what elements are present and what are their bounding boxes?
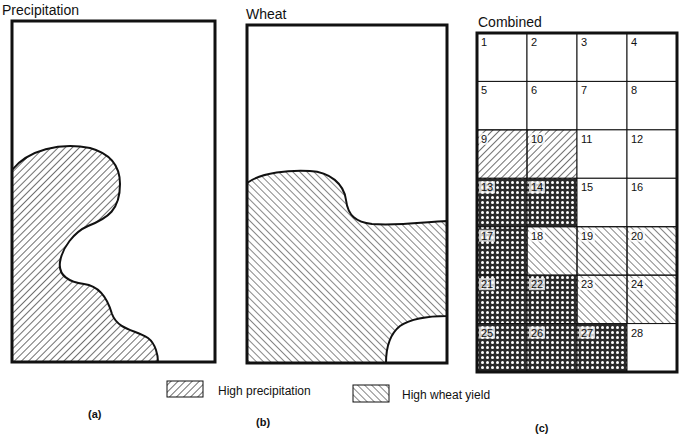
grid-cell-number: 1 <box>481 36 487 48</box>
combined-grid: 1234567891011121314151617181920212223242… <box>477 33 677 372</box>
grid-cell-number: 18 <box>531 230 543 242</box>
grid-cell-number: 2 <box>531 36 537 48</box>
grid-cell-number: 3 <box>581 36 587 48</box>
grid-cell-number: 14 <box>531 181 543 193</box>
caption-a: (a) <box>88 408 101 420</box>
grid-cell-number: 12 <box>631 133 643 145</box>
grid-cell-number: 17 <box>481 230 493 242</box>
grid-cell-number: 13 <box>481 181 493 193</box>
legend-label-precipitation: High precipitation <box>218 384 311 398</box>
grid-cell-number: 20 <box>631 230 643 242</box>
high-wheat-region <box>247 171 447 363</box>
caption-b: (b) <box>256 416 270 428</box>
legend-swatch-wheat <box>353 385 389 402</box>
grid-cell-number: 22 <box>531 278 543 290</box>
high-precipitation-region <box>12 146 158 362</box>
grid-cell-number: 7 <box>581 84 587 96</box>
grid-cell-number: 10 <box>531 133 543 145</box>
grid-cell-number: 5 <box>481 84 487 96</box>
grid-cell-number: 16 <box>631 181 643 193</box>
grid-cell-number: 9 <box>481 133 487 145</box>
grid-cell-number: 11 <box>581 133 592 145</box>
caption-c: (c) <box>535 422 548 434</box>
legend-label-wheat: High wheat yield <box>402 388 490 402</box>
grid-cell-number: 21 <box>481 278 493 290</box>
grid-cell-number: 6 <box>531 84 537 96</box>
grid-cell-number: 8 <box>631 84 637 96</box>
figure-canvas: 1234567891011121314151617181920212223242… <box>0 0 680 436</box>
grid-cell-number: 26 <box>531 327 543 339</box>
grid-cell-number: 24 <box>631 278 643 290</box>
grid-cell-number: 27 <box>581 327 593 339</box>
precipitation-map <box>12 21 215 362</box>
grid-cell-number: 23 <box>581 278 593 290</box>
grid-cell-number: 28 <box>631 327 643 339</box>
legend-swatch-precipitation <box>167 381 203 397</box>
grid-cell-number: 25 <box>481 327 493 339</box>
grid-cell-number: 19 <box>581 230 593 242</box>
grid-cell-number: 4 <box>631 36 637 48</box>
grid-cell-number: 15 <box>581 181 593 193</box>
wheat-map <box>247 25 447 363</box>
